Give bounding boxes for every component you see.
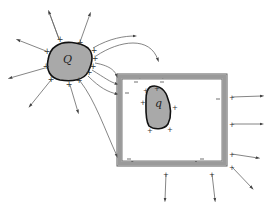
label-q: q: [155, 97, 162, 110]
svg-text:+: +: [77, 38, 84, 47]
svg-text:+: +: [57, 35, 64, 44]
svg-text:+: +: [143, 87, 149, 95]
svg-text:+: +: [229, 94, 235, 102]
svg-text:+: +: [163, 171, 169, 179]
svg-text:+: +: [86, 68, 93, 77]
diagram-svg: + + + + + + + + + + + + + + + + + + + + …: [0, 0, 271, 213]
svg-text:+: +: [140, 99, 146, 107]
svg-text:+: +: [154, 85, 160, 93]
svg-text:+: +: [76, 76, 83, 85]
svg-text:+: +: [229, 121, 235, 129]
svg-text:+: +: [66, 80, 73, 89]
field-diagram: + + + + + + + + + + + + + + + + + + + + …: [0, 0, 271, 213]
svg-text:+: +: [172, 104, 178, 112]
svg-text:+: +: [147, 127, 153, 135]
svg-text:+: +: [43, 62, 50, 71]
svg-text:+: +: [44, 47, 51, 56]
svg-text:+: +: [48, 75, 55, 84]
svg-text:+: +: [167, 126, 173, 134]
svg-text:+: +: [229, 164, 235, 172]
conducting-box: [117, 74, 227, 166]
svg-text:+: +: [229, 151, 235, 159]
label-Q: Q: [63, 53, 72, 66]
svg-text:+: +: [209, 171, 215, 179]
